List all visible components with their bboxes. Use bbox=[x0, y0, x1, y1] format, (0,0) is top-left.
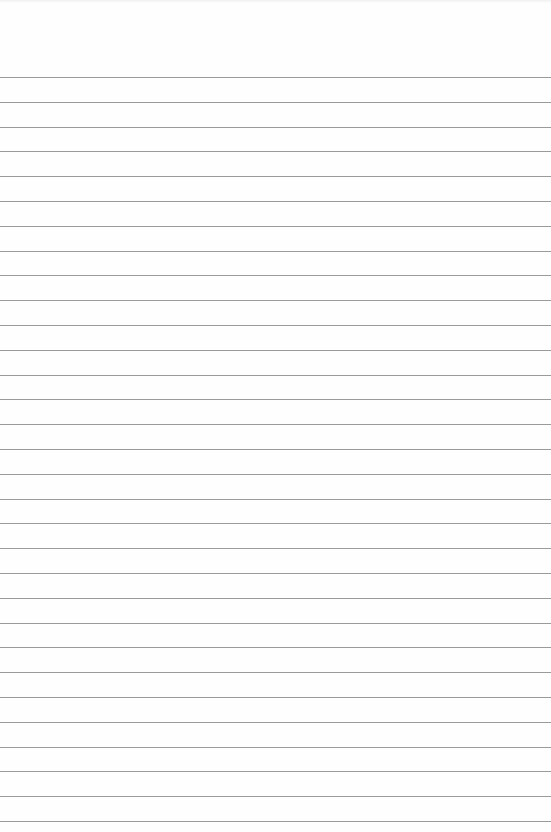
ruled-line bbox=[0, 399, 551, 400]
ruled-line bbox=[0, 251, 551, 252]
ruled-line bbox=[0, 598, 551, 599]
ruled-line bbox=[0, 77, 551, 78]
ruled-line bbox=[0, 474, 551, 475]
ruled-line bbox=[0, 672, 551, 673]
ruled-line bbox=[0, 102, 551, 103]
ruled-line bbox=[0, 499, 551, 500]
ruled-line bbox=[0, 226, 551, 227]
ruled-line bbox=[0, 424, 551, 425]
ruled-line bbox=[0, 127, 551, 128]
ruled-line bbox=[0, 821, 551, 822]
ruled-line bbox=[0, 350, 551, 351]
ruled-line bbox=[0, 747, 551, 748]
ruled-line bbox=[0, 176, 551, 177]
torn-top-edge bbox=[0, 0, 551, 3]
ruled-line bbox=[0, 201, 551, 202]
ruled-line bbox=[0, 623, 551, 624]
ruled-line bbox=[0, 449, 551, 450]
ruled-line bbox=[0, 796, 551, 797]
ruled-line bbox=[0, 300, 551, 301]
ruled-line bbox=[0, 325, 551, 326]
ruled-line bbox=[0, 697, 551, 698]
ruled-line bbox=[0, 573, 551, 574]
ruled-line bbox=[0, 151, 551, 152]
ruled-line bbox=[0, 771, 551, 772]
ruled-line bbox=[0, 375, 551, 376]
ruled-line bbox=[0, 647, 551, 648]
ruled-line bbox=[0, 548, 551, 549]
ruled-line bbox=[0, 523, 551, 524]
lined-paper bbox=[0, 0, 551, 832]
ruled-line bbox=[0, 275, 551, 276]
ruled-line bbox=[0, 722, 551, 723]
